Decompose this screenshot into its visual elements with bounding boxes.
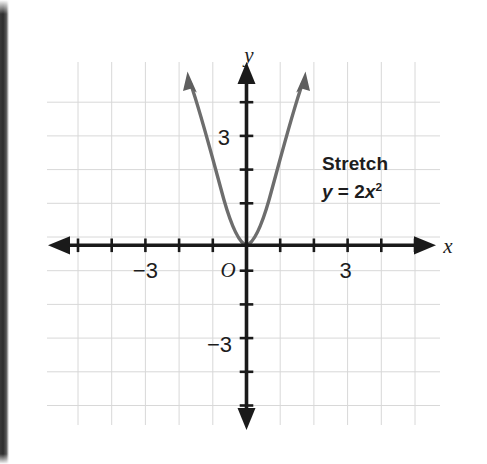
x-axis-left-arrowhead <box>48 236 70 254</box>
coordinate-plane: −3 3 3 −3 O x y <box>0 0 487 464</box>
axes <box>48 62 436 430</box>
axis-labels: −3 3 3 −3 O x y <box>133 43 453 357</box>
y-axis-label: y <box>242 43 254 67</box>
x-axis-right-arrowhead <box>414 236 436 254</box>
y-tick-label-3: 3 <box>218 125 230 150</box>
origin-label: O <box>220 258 235 282</box>
curve-annotation: Stretch y = 2x2 <box>322 152 388 205</box>
x-tick-label-neg3: −3 <box>133 258 158 283</box>
y-tick-label-neg3: −3 <box>207 332 232 357</box>
x-tick-label-3: 3 <box>339 258 351 283</box>
annotation-equation: y = 2x2 <box>322 179 388 205</box>
figure-page: −3 3 3 −3 O x y Stretch y = 2x2 <box>0 0 487 464</box>
y-axis-down-arrowhead <box>238 408 256 430</box>
parabola-right-arrowhead <box>296 72 310 93</box>
annotation-title: Stretch <box>322 152 388 176</box>
parabola-left-arrowhead <box>183 72 197 93</box>
x-axis-label: x <box>442 234 453 258</box>
